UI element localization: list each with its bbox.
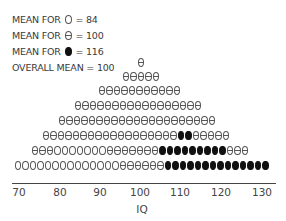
theta-circle-icon bbox=[66, 116, 73, 125]
dot-row bbox=[74, 101, 202, 111]
theta-circle-icon bbox=[114, 86, 121, 95]
theta-circle-icon bbox=[81, 116, 88, 125]
theta-circle-icon bbox=[142, 161, 149, 170]
theta-circle-icon bbox=[242, 146, 249, 155]
solid-circle-icon bbox=[165, 161, 172, 170]
x-tick-label: 90 bbox=[93, 186, 106, 198]
theta-circle-icon bbox=[144, 146, 151, 155]
solid-circle-icon bbox=[225, 161, 232, 170]
theta-circle-icon bbox=[163, 131, 170, 140]
theta-circle-icon bbox=[138, 72, 145, 81]
theta-circle-icon bbox=[170, 131, 177, 140]
theta-circle-icon bbox=[96, 116, 103, 125]
open-circle-icon bbox=[99, 146, 106, 155]
theta-circle-icon bbox=[107, 146, 114, 155]
solid-circle-icon bbox=[167, 146, 174, 155]
x-tick-label: 80 bbox=[53, 186, 66, 198]
solid-circle-icon bbox=[232, 161, 239, 170]
solid-circle-icon bbox=[202, 161, 209, 170]
theta-circle-icon bbox=[121, 86, 128, 95]
theta-circle-icon bbox=[135, 101, 142, 110]
solid-circle-icon bbox=[185, 131, 192, 140]
x-tick-label: 130 bbox=[252, 186, 272, 198]
solid-circle-icon bbox=[210, 161, 217, 170]
theta-circle-icon bbox=[39, 146, 46, 155]
theta-circle-icon bbox=[95, 131, 102, 140]
solid-circle-icon bbox=[182, 146, 189, 155]
theta-circle-icon bbox=[157, 101, 164, 110]
theta-circle-icon bbox=[144, 86, 151, 95]
theta-circle-icon bbox=[135, 161, 142, 170]
theta-circle-icon bbox=[122, 146, 129, 155]
dot-row bbox=[137, 58, 145, 68]
theta-circle-icon bbox=[186, 116, 193, 125]
theta-circle-icon bbox=[174, 86, 181, 95]
theta-circle-icon bbox=[133, 131, 140, 140]
theta-circle-icon bbox=[171, 116, 178, 125]
open-circle-icon bbox=[77, 146, 84, 155]
x-tick-label: 120 bbox=[211, 186, 231, 198]
theta-circle-icon bbox=[50, 131, 57, 140]
x-axis-line bbox=[12, 183, 276, 184]
open-circle-icon bbox=[30, 161, 37, 170]
solid-circle-icon bbox=[189, 146, 196, 155]
theta-circle-icon bbox=[75, 101, 82, 110]
theta-circle-icon bbox=[140, 131, 147, 140]
solid-circle-icon bbox=[262, 161, 269, 170]
dot-row bbox=[58, 116, 216, 126]
theta-circle-icon bbox=[105, 101, 112, 110]
solid-circle-icon bbox=[178, 131, 185, 140]
theta-circle-icon bbox=[111, 116, 118, 125]
theta-circle-icon bbox=[215, 131, 222, 140]
theta-circle-icon bbox=[120, 161, 127, 170]
dot-row bbox=[98, 86, 181, 96]
theta-circle-icon bbox=[129, 86, 136, 95]
solid-circle-icon bbox=[187, 161, 194, 170]
theta-circle-icon bbox=[155, 131, 162, 140]
theta-circle-icon bbox=[164, 116, 171, 125]
theta-circle-icon bbox=[153, 72, 160, 81]
theta-circle-icon bbox=[127, 101, 134, 110]
open-circle-icon bbox=[69, 146, 76, 155]
theta-circle-icon bbox=[126, 116, 133, 125]
solid-circle-icon bbox=[197, 146, 204, 155]
theta-circle-icon bbox=[201, 116, 208, 125]
theta-circle-icon bbox=[166, 86, 173, 95]
theta-circle-icon bbox=[114, 146, 121, 155]
open-circle-icon bbox=[15, 161, 22, 170]
open-circle-icon bbox=[67, 161, 74, 170]
theta-circle-icon bbox=[179, 116, 186, 125]
theta-circle-icon bbox=[223, 131, 230, 140]
x-axis-label: IQ bbox=[136, 203, 147, 215]
solid-circle-icon bbox=[174, 146, 181, 155]
theta-circle-icon bbox=[74, 116, 81, 125]
theta-circle-icon bbox=[138, 58, 145, 67]
theta-circle-icon bbox=[150, 161, 157, 170]
open-circle-icon bbox=[105, 161, 112, 170]
theta-circle-icon bbox=[227, 146, 234, 155]
theta-circle-icon bbox=[97, 101, 104, 110]
open-circle-icon bbox=[97, 161, 104, 170]
theta-circle-icon bbox=[180, 101, 187, 110]
theta-circle-icon bbox=[106, 86, 113, 95]
theta-circle-icon bbox=[152, 146, 159, 155]
x-tick-label: 110 bbox=[170, 186, 190, 198]
solid-circle-icon bbox=[195, 161, 202, 170]
solid-circle-icon bbox=[217, 161, 224, 170]
open-circle-icon bbox=[37, 161, 44, 170]
solid-circle-icon bbox=[180, 161, 187, 170]
theta-circle-icon bbox=[32, 146, 39, 155]
theta-circle-icon bbox=[194, 116, 201, 125]
theta-circle-icon bbox=[151, 86, 158, 95]
theta-circle-icon bbox=[172, 101, 179, 110]
open-circle-icon bbox=[54, 146, 61, 155]
open-circle-icon bbox=[90, 161, 97, 170]
theta-circle-icon bbox=[141, 116, 148, 125]
dot-row bbox=[14, 161, 269, 171]
theta-circle-icon bbox=[150, 101, 157, 110]
theta-circle-icon bbox=[59, 116, 66, 125]
theta-circle-icon bbox=[137, 146, 144, 155]
theta-circle-icon bbox=[142, 101, 149, 110]
theta-circle-icon bbox=[90, 101, 97, 110]
open-circle-icon bbox=[75, 161, 82, 170]
